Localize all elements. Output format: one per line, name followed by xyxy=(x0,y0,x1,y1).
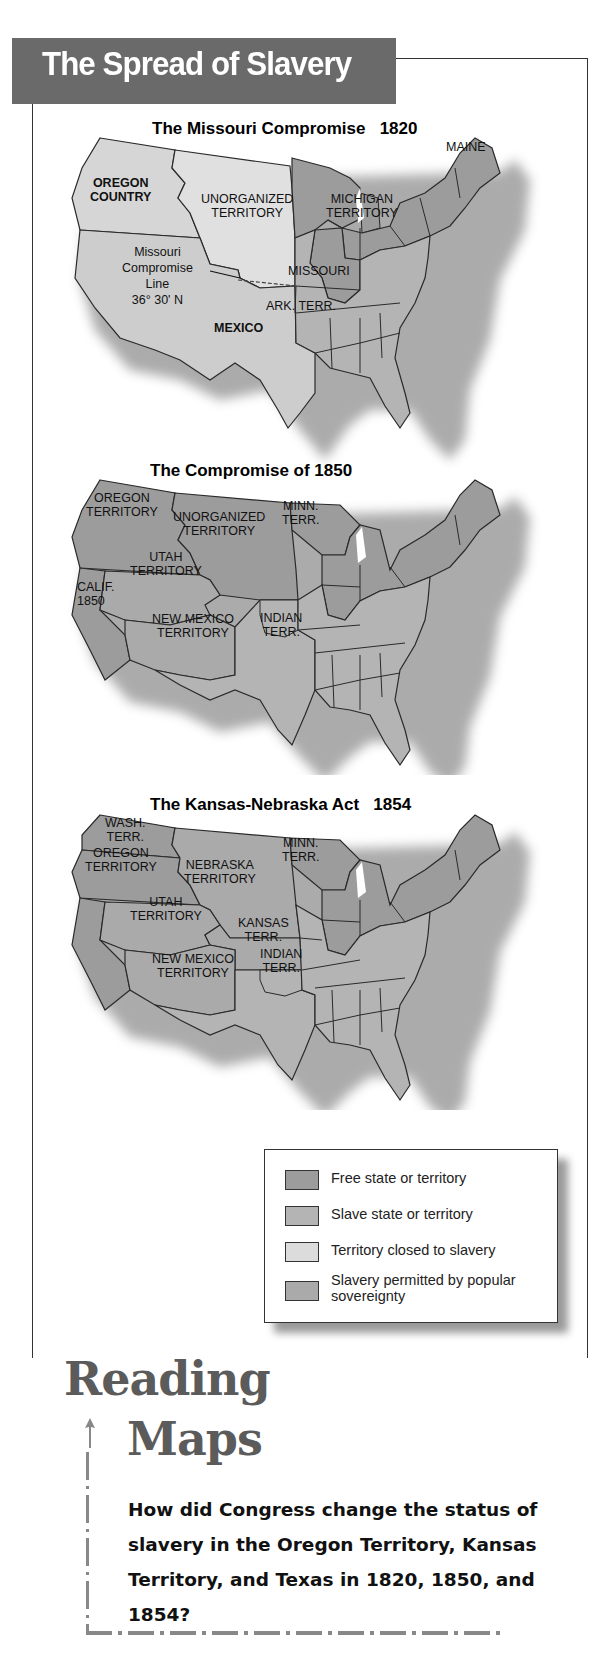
legend-swatch-free xyxy=(285,1170,319,1190)
legend-label-slave: Slave state or territory xyxy=(331,1206,473,1222)
legend-label-popular: Slavery permitted by popular sovereignty xyxy=(331,1272,531,1304)
label-minn-terr-1854: MINN. TERR. xyxy=(282,836,320,864)
label-oregon-territory-1850: OREGON TERRITORY xyxy=(86,491,158,519)
label-minn-terr-1850: MINN. TERR. xyxy=(282,499,320,527)
label-compromise-line: Missouri Compromise Line 36° 30' N xyxy=(122,244,193,308)
legend-item-free: Free state or territory xyxy=(285,1170,466,1190)
legend-item-closed: Territory closed to slavery xyxy=(285,1242,495,1262)
map-legend: Free state or territory Slave state or t… xyxy=(264,1149,558,1323)
reading-maps-heading-line1: Reading xyxy=(64,1352,270,1406)
legend-label-closed: Territory closed to slavery xyxy=(331,1242,495,1258)
legend-item-slave: Slave state or territory xyxy=(285,1206,473,1226)
label-calif-1850: CALIF. 1850 xyxy=(77,580,115,608)
map-missouri-compromise: MAINE OREGON COUNTRY UNORGANIZED TERRITO… xyxy=(60,128,550,468)
label-unorganized-territory: UNORGANIZED TERRITORY xyxy=(201,192,293,220)
label-nebraska-territory: NEBRASKA TERRITORY xyxy=(184,858,256,886)
reading-maps-heading-line2: Maps xyxy=(127,1412,262,1466)
frame-border-left xyxy=(32,104,33,1358)
label-indian-terr-1850: INDIAN TERR. xyxy=(260,611,302,639)
frame-border-top xyxy=(396,58,588,59)
legend-swatch-closed xyxy=(285,1242,319,1262)
label-unorganized-territory-1850: UNORGANIZED TERRITORY xyxy=(173,510,265,538)
legend-swatch-popular xyxy=(285,1281,319,1301)
label-oregon-country: OREGON COUNTRY xyxy=(90,176,151,204)
arrow-up-icon xyxy=(85,1418,95,1448)
label-maine: MAINE xyxy=(446,140,486,154)
label-oregon-territory-1854: OREGON TERRITORY xyxy=(85,846,157,874)
legend-item-popular-sovereignty: Slavery permitted by popular sovereignty xyxy=(285,1272,531,1304)
page-title: The Spread of Slavery xyxy=(42,44,351,83)
label-mexico: MEXICO xyxy=(214,321,263,335)
label-utah-territory-1850: UTAH TERRITORY xyxy=(130,550,202,578)
label-utah-territory-1854: UTAH TERRITORY xyxy=(130,895,202,923)
label-michigan-territory: MICHIGAN TERRITORY xyxy=(326,192,398,220)
reading-maps-question: How did Congress change the status of sl… xyxy=(128,1492,568,1632)
label-ark-terr: ARK. TERR. xyxy=(266,299,336,313)
map-kansas-nebraska: WASH. TERR. OREGON TERRITORY NEBRASKA TE… xyxy=(60,810,550,1110)
legend-label-free: Free state or territory xyxy=(331,1170,466,1186)
label-new-mexico-territory-1850: NEW MEXICO TERRITORY xyxy=(152,612,234,640)
label-kansas-terr: KANSAS TERR. xyxy=(238,916,289,944)
dashed-border-left xyxy=(86,1452,89,1634)
frame-border-right xyxy=(587,58,588,1358)
map-compromise-1850: OREGON TERRITORY UNORGANIZED TERRITORY M… xyxy=(60,475,550,775)
label-missouri: MISSOURI xyxy=(288,264,350,278)
label-indian-terr-1854: INDIAN TERR. xyxy=(260,947,302,975)
label-new-mexico-territory-1854: NEW MEXICO TERRITORY xyxy=(152,952,234,980)
label-wash-terr: WASH. TERR. xyxy=(105,816,146,844)
legend-swatch-slave xyxy=(285,1206,319,1226)
